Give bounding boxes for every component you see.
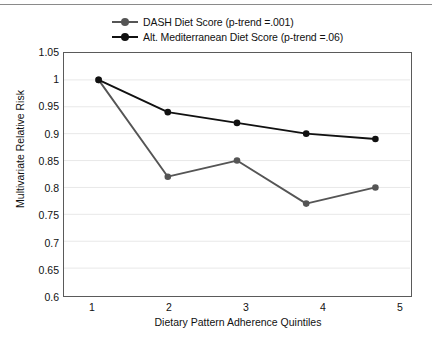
x-tick-label: 5 [385, 301, 415, 313]
series-2 [95, 77, 378, 143]
x-tick-label: 4 [308, 301, 338, 313]
plot-area [63, 52, 412, 297]
data-point-marker [303, 130, 310, 137]
legend-dot-icon [121, 18, 129, 26]
x-tick-label: 3 [231, 301, 261, 313]
data-point-marker [372, 184, 379, 191]
figure-container: DASH Diet Score (p-trend =.001) Alt. Med… [0, 0, 432, 338]
series-line [99, 80, 376, 139]
y-tick-label: 0.65 [19, 264, 59, 276]
x-axis-title: Dietary Pattern Adherence Quintiles [63, 316, 413, 328]
legend-item-label: Alt. Mediterranean Diet Score (p-trend =… [143, 31, 343, 43]
legend-marker-icon [112, 16, 138, 27]
legend-item-label: DASH Diet Score (p-trend =.001) [143, 16, 294, 28]
y-tick-label: 0.8 [19, 182, 59, 194]
chart-svg [64, 53, 410, 295]
y-tick-label: 1 [19, 73, 59, 85]
y-tick-label: 0.6 [19, 291, 59, 303]
data-point-marker [234, 120, 241, 127]
x-tick-label: 1 [77, 301, 107, 313]
y-axis-tick-labels: 1.05 1 0.95 0.9 0.85 0.8 0.75 0.7 0.65 0… [15, 52, 59, 297]
legend-item-dash: DASH Diet Score (p-trend =.001) [112, 14, 412, 29]
top-rule-divider [0, 4, 432, 5]
data-point-marker [165, 173, 172, 180]
grid-lines [64, 80, 410, 268]
chart-legend: DASH Diet Score (p-trend =.001) Alt. Med… [112, 14, 412, 44]
y-tick-label: 0.7 [19, 237, 59, 249]
data-point-marker [234, 157, 241, 164]
y-tick-label: 0.95 [19, 100, 59, 112]
x-tick-label: 2 [154, 301, 184, 313]
y-tick-label: 0.9 [19, 128, 59, 140]
legend-item-mediterranean: Alt. Mediterranean Diet Score (p-trend =… [112, 29, 412, 44]
data-point-marker [95, 77, 102, 84]
data-point-marker [165, 109, 172, 116]
y-tick-label: 0.85 [19, 155, 59, 167]
data-point-marker [372, 136, 379, 143]
y-tick-label: 1.05 [19, 46, 59, 58]
data-point-marker [303, 200, 310, 207]
y-tick-label: 0.75 [19, 209, 59, 221]
legend-dot-icon [121, 33, 129, 41]
legend-marker-icon [112, 31, 138, 42]
